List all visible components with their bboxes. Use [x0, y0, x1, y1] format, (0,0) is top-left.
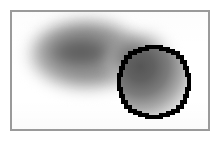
image-frame — [10, 10, 210, 131]
region-of-interest-circle — [116, 44, 192, 120]
image-canvas — [12, 12, 208, 129]
figure-root — [0, 0, 220, 142]
